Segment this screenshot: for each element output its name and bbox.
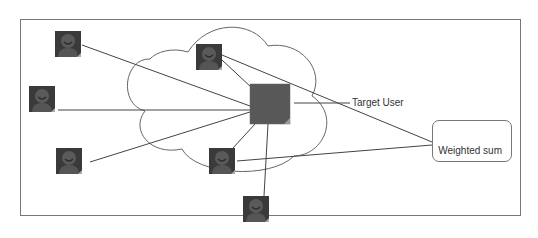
target-user-node bbox=[250, 84, 290, 124]
neighbor-user-icon bbox=[55, 31, 81, 57]
neighbor-user-icon bbox=[243, 196, 269, 222]
edges bbox=[58, 45, 432, 196]
weighted-sum-label: Weighted sum bbox=[438, 145, 502, 156]
target-user-label: Target User bbox=[352, 97, 404, 108]
weighted-sum-box: Weighted sum bbox=[432, 120, 512, 162]
diagram-svg bbox=[0, 0, 538, 238]
neighbor-user-icon bbox=[29, 86, 55, 112]
neighbor-user-icon bbox=[196, 44, 222, 70]
diagram-canvas: Target User Weighted sum bbox=[0, 0, 538, 238]
neighbor-user-icon bbox=[209, 148, 235, 174]
neighbor-user-icon bbox=[56, 148, 82, 174]
